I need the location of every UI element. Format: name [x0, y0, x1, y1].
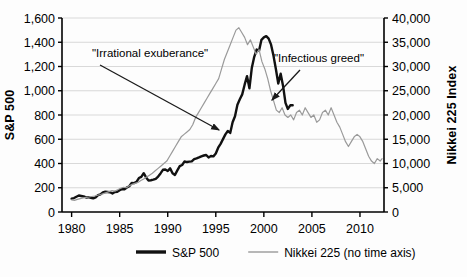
left-axis-tick-label: 800	[34, 109, 55, 123]
x-axis-tick-label: 1990	[154, 222, 182, 236]
right-axis-tick-label: 40,000	[392, 12, 430, 26]
x-axis-tick-label: 1980	[58, 222, 86, 236]
left-axis-tick-label: 600	[34, 133, 55, 147]
chart-canvas: 02004006008001,0001,2001,4001,60005,0001…	[0, 0, 467, 277]
left-axis-tick-label: 1,000	[24, 84, 55, 98]
right-axis-tick-label: 0	[392, 206, 399, 220]
left-axis-tick-label: 400	[34, 157, 55, 171]
x-axis-tick-label: 1995	[202, 222, 230, 236]
legend-label-2: Nikkei 225 (no time axis)	[284, 246, 415, 260]
x-axis-tick-label: 1985	[106, 222, 134, 236]
legend-label-1: S&P 500	[172, 246, 219, 260]
right-axis-tick-label: 10,000	[392, 157, 430, 171]
annotation-label-1: "Irrational exuberance"	[92, 47, 208, 59]
right-axis-tick-label: 30,000	[392, 60, 430, 74]
left-axis-tick-label: 0	[48, 206, 55, 220]
right-axis-tick-label: 35,000	[392, 36, 430, 50]
chart-container: 02004006008001,0001,2001,4001,60005,0001…	[0, 0, 467, 277]
left-axis-title: S&P 500	[3, 90, 17, 141]
left-axis-tick-label: 200	[34, 181, 55, 195]
right-axis-title: Nikkei 225 Index	[445, 66, 459, 165]
left-axis-tick-label: 1,200	[24, 60, 55, 74]
x-axis-tick-label: 2010	[346, 222, 374, 236]
left-axis-tick-label: 1,400	[24, 36, 55, 50]
annotation-label-2: "Infectious greed"	[274, 52, 364, 64]
right-axis-tick-label: 25,000	[392, 84, 430, 98]
right-axis-tick-label: 5,000	[392, 181, 423, 195]
right-axis-tick-label: 15,000	[392, 133, 430, 147]
left-axis-tick-label: 1,600	[24, 12, 55, 26]
x-axis-tick-label: 2000	[250, 222, 278, 236]
right-axis-tick-label: 20,000	[392, 109, 430, 123]
x-axis-tick-label: 2005	[298, 222, 326, 236]
